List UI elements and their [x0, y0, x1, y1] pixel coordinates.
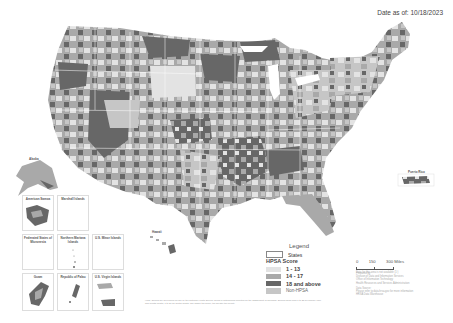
alaska-shape — [16, 160, 58, 196]
inset-guam: Guam — [22, 273, 54, 311]
legend-item-non-hpsa: Non-HPSA — [266, 287, 346, 294]
continental-us — [48, 22, 410, 244]
legend-states: States — [266, 251, 346, 258]
legend-score-heading: HPSA Score — [266, 258, 346, 266]
map-legend: Legend States HPSA Score 1 - 13 14 - 17 … — [266, 243, 346, 294]
legend-item-1-13: 1 - 13 — [266, 266, 346, 273]
virgin-islands-shape — [93, 280, 123, 310]
swatch-18-above — [266, 281, 281, 287]
hawaii-shape — [150, 236, 176, 254]
hpsa-fineprint: HPSA Scores are developed for use by the… — [145, 299, 325, 305]
legend-title: Legend — [252, 243, 346, 249]
inset-palau: Republic of Palau — [57, 273, 89, 311]
inset-micronesia: Federated States of Micronesia — [22, 234, 54, 270]
hawaii-label: Hawaii — [152, 230, 162, 234]
american-samoa-shape — [23, 202, 53, 230]
swatch-non-hpsa — [266, 288, 281, 294]
map-credits: Prepared by: Division of Data and Inform… — [356, 272, 451, 296]
legend-item-14-17: 14 - 17 — [266, 273, 346, 280]
inset-us-virgin-islands: U.S. Virgin Islands — [92, 273, 124, 311]
legend-item-18-above: 18 and above — [266, 280, 346, 287]
puerto-rico-label: Puerto Rico — [408, 170, 425, 174]
inset-american-samoa: American Samoa — [22, 195, 54, 231]
northern-mariana-shape — [58, 244, 88, 270]
guam-shape — [23, 280, 53, 310]
inset-marshall-islands: Marshall Islands — [57, 195, 89, 231]
puerto-rico-shape — [398, 174, 434, 186]
inset-northern-mariana: Northern Mariana Islands — [57, 234, 89, 270]
alaska-label: Alaska — [29, 157, 39, 161]
inset-us-minor-islands: U.S. Minor Islands — [92, 234, 124, 270]
swatch-1-13 — [266, 267, 281, 273]
palau-shape — [58, 280, 88, 310]
swatch-14-17 — [266, 274, 281, 280]
